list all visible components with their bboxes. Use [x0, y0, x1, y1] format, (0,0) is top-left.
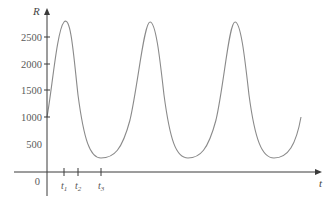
y-tick-label-1500: 1500	[21, 85, 42, 96]
t1-label: t1	[61, 180, 67, 193]
y-tick-label-500: 500	[26, 139, 42, 150]
x-axis-arrow-icon	[315, 169, 322, 175]
t3-label: t3	[98, 180, 105, 193]
origin-label: 0	[35, 176, 40, 187]
y-tick-label-1000: 1000	[21, 112, 42, 123]
y-axis-arrow-icon	[44, 8, 50, 15]
x-axis-label: t	[319, 177, 323, 189]
r-curve	[47, 21, 301, 158]
y-axis-label: R	[32, 5, 40, 17]
t2-label: t2	[75, 180, 82, 193]
y-tick-label-2500: 2500	[21, 32, 42, 43]
predator-prey-chart: R 2500 2000 1500 1000 500 0 t t1 t2 t3	[0, 0, 330, 202]
y-tick-label-2000: 2000	[21, 59, 42, 70]
